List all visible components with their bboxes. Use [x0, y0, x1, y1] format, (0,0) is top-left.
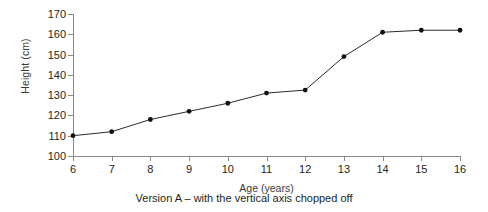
x-tick-mark: [267, 156, 268, 161]
y-tick-label: 150: [48, 49, 66, 60]
data-point: [342, 54, 347, 59]
data-point: [419, 28, 424, 33]
x-tick-mark: [305, 156, 306, 161]
data-point: [148, 117, 153, 122]
x-tick-mark: [150, 156, 151, 161]
x-tick-label: 10: [222, 164, 234, 175]
x-tick-label: 12: [299, 164, 311, 175]
data-point: [71, 133, 76, 138]
data-point: [187, 109, 192, 114]
x-tick-label: 6: [70, 164, 76, 175]
x-tick-label: 7: [109, 164, 115, 175]
data-point: [303, 88, 308, 93]
x-tick-label: 8: [147, 164, 153, 175]
y-tick-label: 140: [48, 69, 66, 80]
x-tick-mark: [228, 156, 229, 161]
y-tick-label: 130: [48, 90, 66, 101]
height-series-plot: [73, 14, 460, 156]
x-tick-mark: [344, 156, 345, 161]
y-tick-label: 160: [48, 29, 66, 40]
plot-area: 100110120130140150160170 678910111213141…: [73, 14, 460, 156]
x-tick-label: 14: [376, 164, 388, 175]
x-tick-label: 9: [186, 164, 192, 175]
data-point: [458, 28, 463, 33]
x-tick-label: 15: [415, 164, 427, 175]
y-tick-label: 170: [48, 9, 66, 20]
data-point: [225, 101, 230, 106]
series-points: [71, 28, 463, 138]
x-tick-label: 16: [454, 164, 466, 175]
data-point: [380, 30, 385, 35]
x-tick-mark: [383, 156, 384, 161]
figure-caption: Version A – with the vertical axis chopp…: [0, 192, 488, 204]
x-tick-label: 11: [261, 164, 272, 175]
y-axis-title: Height (cm): [19, 16, 31, 116]
y-tick-label: 100: [48, 151, 66, 162]
chart-figure: Height (cm) 100110120130140150160170 678…: [0, 0, 488, 212]
x-tick-label: 13: [338, 164, 350, 175]
x-tick-mark: [73, 156, 74, 161]
x-tick-mark: [421, 156, 422, 161]
series-line: [73, 30, 460, 135]
x-tick-mark: [189, 156, 190, 161]
x-tick-mark: [112, 156, 113, 161]
y-tick-label: 120: [48, 110, 66, 121]
x-tick-mark: [460, 156, 461, 161]
data-point: [109, 129, 114, 134]
data-point: [264, 91, 269, 96]
y-tick-label: 110: [48, 130, 66, 141]
